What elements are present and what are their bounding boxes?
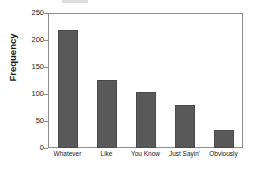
y-axis-tick-label: 200 xyxy=(18,36,44,44)
y-axis-tick-mark xyxy=(44,148,48,149)
y-axis-tick-label: 150 xyxy=(18,63,44,71)
clipped-title-remnant xyxy=(62,0,88,3)
y-axis-title: Frequency xyxy=(7,22,18,94)
y-axis-tick-label: 100 xyxy=(18,90,44,98)
bar-chart: Frequency 050100150200250 WhateverLikeYo… xyxy=(0,0,254,170)
y-axis-tick-label: 250 xyxy=(18,9,44,17)
x-axis-tick-label: Obviously xyxy=(194,151,254,158)
y-axis-tick-label: 50 xyxy=(18,117,44,125)
plot-frame xyxy=(48,13,243,148)
